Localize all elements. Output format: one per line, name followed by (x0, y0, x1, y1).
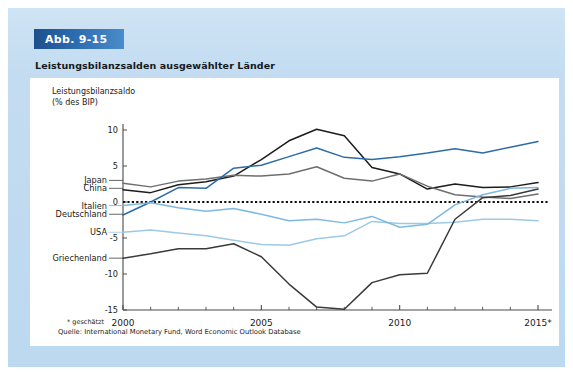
x-axis-tick-label: 2000 (112, 318, 135, 328)
figure-number-label: Abb. 9-15 (45, 33, 108, 46)
series-line-usa (123, 219, 538, 245)
series-label-japan: Japan (83, 175, 107, 185)
x-axis-tick-label: 2010 (388, 318, 411, 328)
series-label-griechenland: Griechenland (52, 253, 107, 263)
y-axis-tick-label: 10 (108, 125, 118, 135)
source-note: Quelle: International Monetary Fund, Wor… (58, 328, 301, 336)
series-line-italien (123, 188, 538, 228)
series-label-usa: USA (90, 227, 107, 237)
y-axis-tick-label: -15 (105, 305, 118, 315)
figure-root: Abb. 9-15 Leistungsbilanzsalden ausgewäh… (0, 0, 573, 375)
series-line-japan (123, 167, 538, 199)
figure-panel: Abb. 9-15 Leistungsbilanzsalden ausgewäh… (8, 8, 565, 367)
line-chart: 1050-5-10-15 2000200520102015* ChinaJapa… (30, 78, 559, 346)
figure-number-badge: Abb. 9-15 (34, 29, 124, 49)
y-axis: 1050-5-10-15 (105, 124, 127, 315)
footnote: * geschätzt (67, 318, 104, 326)
figure-title: Leistungsbilanzsalden ausgewählter Lände… (35, 60, 275, 71)
chart-card: Leistungsbilanzsaldo (% des BIP) 1050-5-… (30, 78, 559, 346)
y-axis-tick-label: -5 (110, 233, 118, 243)
series-line-griechenland (123, 189, 538, 309)
x-axis-tick-label: 2005 (250, 318, 273, 328)
y-axis-tick-label: -10 (105, 269, 118, 279)
x-axis-tick-label: 2015* (524, 318, 552, 328)
y-axis-tick-label: 5 (113, 161, 118, 171)
series-line-china (123, 129, 538, 192)
series-lines (123, 129, 538, 309)
series-labels: ChinaJapanDeutschlandUSAItalienGriechenl… (52, 175, 123, 263)
series-label-italien: Italien (82, 201, 107, 211)
series-label-deutschland: Deutschland (56, 209, 107, 219)
